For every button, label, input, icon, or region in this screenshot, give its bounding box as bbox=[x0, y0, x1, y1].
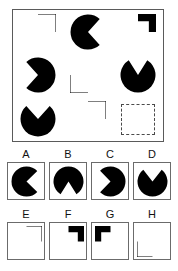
option-g[interactable]: G bbox=[91, 208, 129, 260]
notched-circle-shape-icon bbox=[53, 226, 84, 257]
option-c-label: C bbox=[106, 148, 114, 161]
option-e-box[interactable] bbox=[7, 222, 45, 260]
option-e[interactable]: E bbox=[7, 208, 45, 260]
pacman-shape-icon bbox=[20, 57, 56, 93]
option-a[interactable]: A bbox=[7, 148, 45, 200]
option-c[interactable]: C bbox=[91, 148, 129, 200]
pacman-shape-icon bbox=[120, 57, 156, 93]
matrix-cell-r1-c3 bbox=[113, 10, 163, 54]
option-d-box[interactable] bbox=[133, 162, 171, 200]
option-a-label: A bbox=[22, 148, 29, 161]
puzzle-page: ABCD EFGH bbox=[0, 0, 178, 271]
matrix-grid bbox=[13, 10, 163, 141]
option-f-box[interactable] bbox=[49, 222, 87, 260]
option-g-label: G bbox=[106, 208, 115, 221]
pacman-shape-icon bbox=[137, 166, 168, 197]
option-e-label: E bbox=[22, 208, 29, 221]
option-b-box[interactable] bbox=[49, 162, 87, 200]
matrix-cell-r2-c2 bbox=[63, 54, 113, 98]
pacman-shape-icon bbox=[95, 166, 126, 197]
matrix-cell-r1-c1 bbox=[13, 10, 63, 54]
notched-circle-shape-icon bbox=[70, 57, 106, 93]
matrix-cell-r3-c2 bbox=[63, 97, 113, 141]
pacman-shape-icon bbox=[11, 166, 42, 197]
matrix-panel bbox=[12, 9, 164, 142]
option-h-box[interactable] bbox=[133, 222, 171, 260]
notched-circle-shape-icon bbox=[20, 14, 56, 50]
pacman-shape-icon bbox=[70, 14, 106, 50]
option-b[interactable]: B bbox=[49, 148, 87, 200]
notched-circle-shape-icon bbox=[11, 226, 42, 257]
option-d-label: D bbox=[148, 148, 156, 161]
notched-circle-shape-icon bbox=[95, 226, 126, 257]
option-d[interactable]: D bbox=[133, 148, 171, 200]
options-row-bottom: EFGH bbox=[7, 208, 171, 260]
notched-circle-shape-icon bbox=[120, 14, 156, 50]
option-g-box[interactable] bbox=[91, 222, 129, 260]
matrix-cell-r1-c2 bbox=[63, 10, 113, 54]
matrix-cell-r2-c1 bbox=[13, 54, 63, 98]
matrix-cell-r3-c3 bbox=[113, 97, 163, 141]
option-c-box[interactable] bbox=[91, 162, 129, 200]
notched-circle-shape-icon bbox=[70, 101, 106, 137]
options-row-top: ABCD bbox=[7, 148, 171, 200]
option-h-label: H bbox=[148, 208, 156, 221]
option-f-label: F bbox=[65, 208, 72, 221]
pacman-shape-icon bbox=[20, 101, 56, 137]
missing-tile-placeholder bbox=[121, 104, 155, 135]
option-f[interactable]: F bbox=[49, 208, 87, 260]
option-h[interactable]: H bbox=[133, 208, 171, 260]
matrix-cell-r3-c1 bbox=[13, 97, 63, 141]
notched-circle-shape-icon bbox=[137, 226, 168, 257]
option-b-label: B bbox=[64, 148, 71, 161]
matrix-cell-r2-c3 bbox=[113, 54, 163, 98]
pacman-shape-icon bbox=[53, 166, 84, 197]
option-a-box[interactable] bbox=[7, 162, 45, 200]
